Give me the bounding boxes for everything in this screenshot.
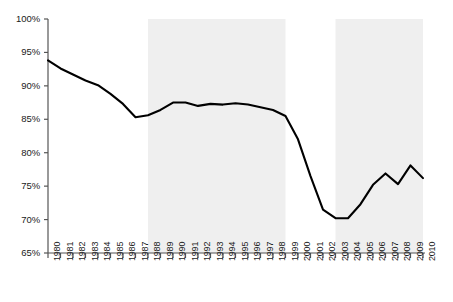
y-tick-label: 80% [0, 147, 40, 158]
x-tick-label: 2001 [315, 242, 325, 261]
x-tick-label: 1983 [90, 242, 100, 261]
x-tick-label: 1986 [127, 242, 137, 261]
x-tick-label: 2007 [390, 242, 400, 261]
x-tick-label: 2000 [302, 242, 312, 261]
y-tick-label: 70% [0, 214, 40, 225]
x-tick-label: 1992 [202, 242, 212, 261]
x-tick-label: 2005 [365, 242, 375, 261]
x-tick-label: 1994 [227, 242, 237, 261]
y-tick-label: 95% [0, 46, 40, 57]
x-tick-label: 2008 [402, 242, 412, 261]
x-tick-label: 1993 [215, 242, 225, 261]
y-tick-label: 75% [0, 180, 40, 191]
y-tick-label: 65% [0, 247, 40, 258]
x-tick-label: 2004 [352, 242, 362, 261]
y-tick-label: 85% [0, 113, 40, 124]
x-tick-label: 1990 [177, 242, 187, 261]
y-tick-label: 90% [0, 80, 40, 91]
x-tick-label: 1997 [265, 242, 275, 261]
x-tick-label: 1980 [52, 242, 62, 261]
x-tick-label: 1985 [115, 242, 125, 261]
chart-container: 65%70%75%80%85%90%95%100% 19801981198219… [0, 0, 453, 302]
x-tick-label: 1995 [240, 242, 250, 261]
x-tick-label: 2010 [427, 242, 437, 261]
x-tick-label: 1991 [190, 242, 200, 261]
x-tick-label: 1989 [165, 242, 175, 261]
x-tick-label: 2006 [377, 242, 387, 261]
x-tick-label: 1981 [65, 242, 75, 261]
x-tick-label: 2003 [340, 242, 350, 261]
x-tick-label: 2009 [415, 242, 425, 261]
x-tick-label: 1984 [102, 242, 112, 261]
x-tick-label: 2002 [327, 242, 337, 261]
x-tick-label: 1996 [252, 242, 262, 261]
shaded-band-1 [148, 19, 286, 253]
x-tick-label: 1988 [152, 242, 162, 261]
x-tick-label: 1999 [290, 242, 300, 261]
x-tick-label: 1987 [140, 242, 150, 261]
x-tick-label: 1982 [77, 242, 87, 261]
y-tick-label: 100% [0, 13, 40, 24]
x-tick-label: 1998 [277, 242, 287, 261]
